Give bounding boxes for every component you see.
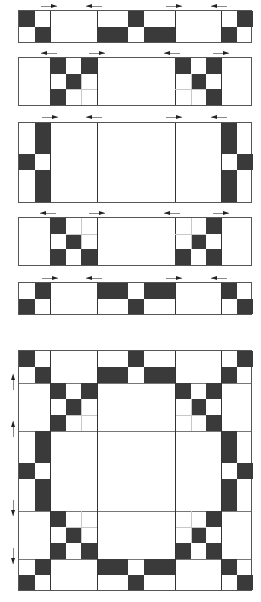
column-seam <box>97 351 98 590</box>
dark-square <box>50 543 66 559</box>
guide-line <box>191 511 192 543</box>
press-arrow-right-icon <box>166 114 182 120</box>
dark-square <box>128 299 144 315</box>
dark-square <box>175 383 191 399</box>
strip-row-3 <box>18 122 252 203</box>
seam-line <box>221 218 222 265</box>
seam-line <box>175 283 176 314</box>
seam-line <box>50 123 51 202</box>
dark-square <box>237 575 253 590</box>
dark-square <box>19 154 35 170</box>
dark-rectangle <box>35 123 51 154</box>
dark-square <box>237 11 253 27</box>
dark-rectangle <box>222 479 238 511</box>
dark-square <box>128 351 144 367</box>
assembled-quilt-block <box>18 350 252 591</box>
dark-rectangle <box>144 283 175 299</box>
dark-square <box>237 299 253 315</box>
dark-square <box>206 58 222 74</box>
dark-square <box>222 27 238 43</box>
dark-rectangle <box>97 367 128 383</box>
dark-square <box>50 249 66 265</box>
press-arrow-left-icon <box>86 114 102 120</box>
press-arrow-down-icon <box>11 500 16 516</box>
strip-row-1 <box>18 10 252 43</box>
dark-square <box>175 58 191 74</box>
column-seam <box>175 351 176 590</box>
dark-square <box>81 249 97 265</box>
dark-rectangle <box>97 559 128 575</box>
press-arrow-up-icon <box>11 374 16 390</box>
dark-square <box>222 283 238 299</box>
press-arrow-left-icon <box>164 210 180 216</box>
row-seam <box>19 559 251 560</box>
dark-square <box>50 218 66 234</box>
dark-square <box>66 74 82 90</box>
seam-line <box>221 58 222 105</box>
seam-line <box>97 218 98 265</box>
press-arrow-right-icon <box>89 210 105 216</box>
guide-line <box>81 218 82 249</box>
dark-square <box>206 218 222 234</box>
press-arrow-left-icon <box>40 210 56 216</box>
dark-square <box>66 399 82 415</box>
dark-square <box>222 367 238 383</box>
dark-square <box>206 543 222 559</box>
dark-square <box>50 511 66 527</box>
dark-square <box>206 383 222 399</box>
press-arrow-right-icon <box>42 114 58 120</box>
strip-row-5 <box>18 282 252 315</box>
press-arrow-right-icon <box>213 50 229 56</box>
dark-square <box>66 234 82 250</box>
dark-square <box>206 415 222 431</box>
strip-row-2 <box>18 57 252 106</box>
seam-line <box>50 283 51 314</box>
press-arrow-left-icon <box>86 275 102 281</box>
dark-square <box>35 27 51 43</box>
press-arrow-right-icon <box>213 210 229 216</box>
dark-square <box>50 58 66 74</box>
dark-square <box>206 249 222 265</box>
dark-square <box>35 367 51 383</box>
press-arrow-right-icon <box>166 275 182 281</box>
press-arrow-down-icon <box>11 548 16 564</box>
dark-square <box>128 575 144 590</box>
dark-square <box>19 299 35 315</box>
dark-square <box>222 559 238 575</box>
dark-square <box>19 575 35 590</box>
dark-rectangle <box>144 27 175 43</box>
seam-line <box>97 123 98 202</box>
dark-square <box>50 89 66 105</box>
dark-rectangle <box>97 27 128 43</box>
dark-rectangle <box>144 559 175 575</box>
press-arrow-right-icon <box>41 3 57 9</box>
dark-square <box>237 351 253 367</box>
dark-square <box>35 559 51 575</box>
dark-square <box>191 234 207 250</box>
dark-square <box>19 463 35 479</box>
column-seam <box>221 351 222 590</box>
guide-line <box>81 74 82 105</box>
dark-square <box>50 415 66 431</box>
dark-square <box>191 74 207 90</box>
dark-rectangle <box>222 431 238 463</box>
press-arrow-left-icon <box>211 3 227 9</box>
dark-rectangle <box>222 123 238 154</box>
press-arrow-left-icon <box>211 114 227 120</box>
guide-line <box>191 218 192 249</box>
dark-square <box>175 543 191 559</box>
seam-line <box>175 123 176 202</box>
press-arrow-left-icon <box>41 50 57 56</box>
dark-rectangle <box>97 283 128 299</box>
dark-rectangle <box>35 431 51 463</box>
guide-line <box>81 399 82 431</box>
dark-square <box>35 283 51 299</box>
press-arrow-right-icon <box>42 275 58 281</box>
dark-square <box>128 11 144 27</box>
press-arrow-right-icon <box>89 50 105 56</box>
dark-rectangle <box>222 170 238 202</box>
dark-square <box>191 527 207 543</box>
dark-rectangle <box>35 170 51 202</box>
guide-line <box>191 399 192 431</box>
dark-square <box>19 11 35 27</box>
